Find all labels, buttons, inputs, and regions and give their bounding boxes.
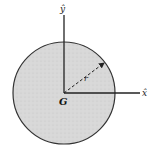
- y-axis-label: ŷ: [59, 4, 66, 14]
- disk-diagram: ŷ x̂ r G: [0, 0, 156, 153]
- centroid-label: G: [59, 96, 68, 107]
- x-axis-label: x̂: [142, 88, 147, 98]
